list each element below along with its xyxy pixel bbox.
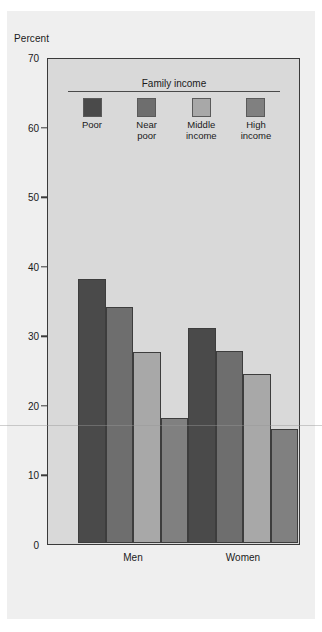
y-axis-tick-label: 30 (28, 331, 39, 342)
y-axis-title: Percent (14, 33, 49, 44)
y-axis-tick-label: 40 (28, 261, 39, 272)
x-axis-labels: MenWomen (47, 552, 300, 572)
bar-women-middle-income (243, 374, 271, 543)
bar-women-high-income (271, 429, 299, 544)
x-axis-label-women: Women (226, 552, 260, 563)
y-axis-tick-label: 60 (28, 122, 39, 133)
bar-men-poor (78, 279, 106, 543)
chart-screenshot: Percent 706050403020100 Family income Po… (0, 0, 322, 632)
clipped-header-text (0, 0, 322, 8)
y-axis-tick-label: 10 (28, 470, 39, 481)
y-axis-tick-label: 20 (28, 400, 39, 411)
bar-women-near-poor (216, 351, 244, 544)
bar-women-poor (188, 328, 216, 544)
bars-layer (47, 58, 300, 545)
y-axis-tick-label: 70 (28, 53, 39, 64)
y-axis-tick-label: 0 (33, 540, 39, 551)
x-axis-label-men: Men (123, 552, 142, 563)
bar-men-high-income (161, 418, 189, 543)
bar-men-middle-income (133, 352, 161, 543)
bar-men-near-poor (106, 307, 134, 544)
y-axis-ticks: 706050403020100 (0, 58, 43, 545)
y-axis-tick-label: 50 (28, 192, 39, 203)
